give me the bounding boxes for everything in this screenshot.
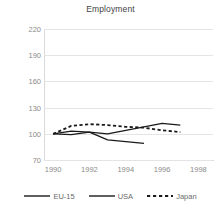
legend-item-japan[interactable]: Japan [147,192,196,201]
legend-swatch-dotted [147,192,173,200]
series-line-eu-15 [53,132,144,143]
x-axis-tick-labels: 19901992199419961998 [44,165,213,177]
legend-item-usa[interactable]: USA [89,192,133,201]
legend-swatch-solid [24,192,50,200]
y-tick-label: 160 [1,77,41,86]
series-container [44,29,213,160]
legend-label: EU-15 [53,192,74,201]
legend-label: USA [118,192,133,201]
legend-item-eu-15[interactable]: EU-15 [24,192,74,201]
x-tick-label: 1994 [117,165,134,174]
x-tick-label: 1998 [190,165,207,174]
y-tick-label: 100 [1,129,41,138]
legend-label: Japan [176,192,196,201]
x-tick-label: 1992 [81,165,98,174]
y-axis-tick-labels: 70100130160190220 [0,29,41,160]
y-tick-label: 220 [1,25,41,34]
x-tick-label: 1990 [45,165,62,174]
plot-area [44,29,213,160]
y-tick-label: 70 [1,156,41,165]
y-tick-label: 130 [1,103,41,112]
gridline [44,160,213,161]
legend-swatch-solid [89,192,115,200]
series-line-usa [53,123,180,133]
chart-legend: EU-15USAJapan [0,189,221,203]
employment-line-chart: Employment 70100130160190220 19901992199… [0,0,221,208]
x-tick-label: 1996 [154,165,171,174]
y-tick-label: 190 [1,51,41,60]
chart-title: Employment [0,4,221,14]
